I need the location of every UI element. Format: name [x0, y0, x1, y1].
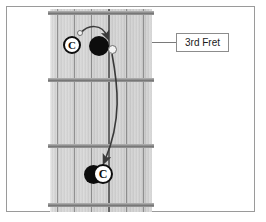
string-6	[57, 9, 58, 212]
fret-callout-label: 3rd Fret	[176, 33, 229, 52]
fret-wire-3	[48, 78, 154, 82]
callout-leader-line	[152, 42, 176, 43]
pivot-dot-icon	[108, 45, 117, 54]
c-note-upper-marker: C	[63, 36, 81, 54]
fret-wire-4	[48, 144, 154, 148]
origin-tick-upper-icon	[77, 30, 83, 36]
fret-wire-2	[48, 11, 154, 15]
figure-root: C C 3rd Fret	[0, 0, 266, 222]
fret-callout-text: 3rd Fret	[185, 37, 220, 48]
c-note-lower-marker: C	[93, 164, 113, 184]
string-2	[126, 9, 127, 212]
target-dot-upper-icon	[89, 36, 109, 56]
fret-wire-5	[48, 203, 154, 207]
string-1	[143, 9, 144, 212]
c-note-lower-label: C	[99, 168, 108, 180]
c-note-upper-label: C	[68, 40, 76, 51]
